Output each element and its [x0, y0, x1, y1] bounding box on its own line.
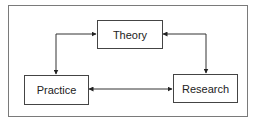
node-theory-label: Theory: [113, 29, 147, 41]
node-research-label: Research: [182, 83, 229, 95]
node-practice: Practice: [24, 75, 89, 105]
node-practice-label: Practice: [37, 84, 77, 96]
edge-theory-research: [163, 34, 206, 73]
node-theory: Theory: [97, 20, 163, 49]
edge-theory-practice: [56, 34, 96, 74]
node-research: Research: [173, 74, 238, 103]
